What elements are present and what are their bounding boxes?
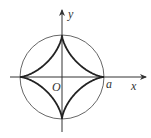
x-axis-label: x [130,79,137,93]
astroid-diagram: y x O a [0,0,151,138]
a-label: a [106,77,112,91]
y-axis-label: y [67,7,74,21]
origin-label: O [52,80,61,94]
